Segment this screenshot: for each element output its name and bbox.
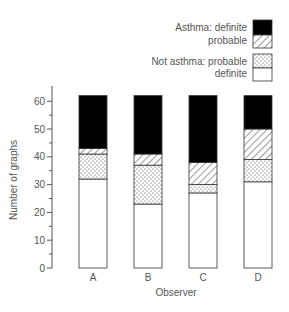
bar-segment	[79, 96, 107, 149]
stacked-bar-chart: Asthma: definiteprobableNot asthma: prob…	[0, 0, 289, 312]
bar-segment	[189, 193, 217, 268]
bar-a	[79, 96, 107, 268]
y-tick-label: 0	[39, 263, 45, 274]
bar-segment	[134, 96, 162, 154]
y-tick-label: 30	[34, 179, 46, 190]
bar-segment	[79, 154, 107, 179]
bar-segment	[244, 96, 272, 129]
legend: Asthma: definiteprobableNot asthma: prob…	[151, 20, 272, 81]
y-tick-label: 50	[34, 124, 46, 135]
bar-segment	[134, 204, 162, 268]
bar-segment	[244, 129, 272, 160]
legend-swatch-asthma-probable	[253, 35, 272, 48]
x-tick-label: B	[145, 272, 152, 283]
legend-swatch-asthma-definite	[253, 20, 272, 35]
y-tick-label: 60	[34, 96, 46, 107]
y-tick-label: 20	[34, 207, 46, 218]
x-tick-label: A	[90, 272, 97, 283]
y-axis: 0102030405060Number of graphs	[8, 86, 52, 274]
legend-label-asthma-probable: probable	[208, 35, 247, 46]
y-axis-label: Number of graphs	[8, 140, 19, 220]
legend-label-asthma-definite: Asthma: definite	[175, 22, 247, 33]
bar-segment	[189, 162, 217, 184]
x-tick-label: C	[199, 272, 206, 283]
bar-segment	[189, 96, 217, 163]
bar-segment	[79, 179, 107, 268]
legend-swatch-not-asthma-probable	[253, 54, 272, 68]
x-axis-label: Observer	[155, 287, 197, 298]
bar-segment	[244, 182, 272, 268]
legend-swatch-not-asthma-definite	[253, 68, 272, 81]
y-tick-label: 10	[34, 235, 46, 246]
bars	[79, 96, 272, 268]
bar-segment	[189, 185, 217, 193]
legend-label-not-asthma-definite: definite	[215, 68, 248, 79]
x-axis: ABCDObserver	[90, 272, 262, 298]
y-tick-label: 40	[34, 151, 46, 162]
bar-segment	[134, 165, 162, 204]
bar-segment	[79, 148, 107, 154]
bar-segment	[134, 154, 162, 165]
bar-d	[244, 96, 272, 268]
bar-c	[189, 96, 217, 268]
x-tick-label: D	[254, 272, 261, 283]
bar-segment	[244, 160, 272, 182]
legend-label-not-asthma-probable: Not asthma: probable	[151, 56, 247, 67]
bar-b	[134, 96, 162, 268]
